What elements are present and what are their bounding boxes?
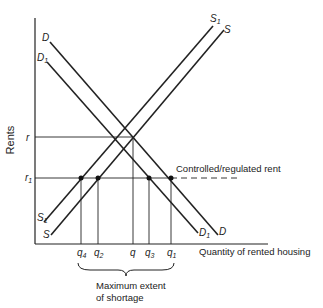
brace-label-line1: Maximum extent <box>96 280 166 291</box>
label-q3: q3 <box>145 247 155 259</box>
label-S-top: S <box>224 24 231 35</box>
shortage-brace <box>78 263 174 276</box>
label-S-bottom: S <box>43 229 50 240</box>
label-q4: q4 <box>77 247 87 259</box>
label-r1: r1 <box>25 172 32 184</box>
label-D-top: D <box>42 32 49 43</box>
point-q3 <box>147 176 152 181</box>
brace-label-line2: of shortage <box>96 292 144 303</box>
label-q1: q1 <box>167 247 177 259</box>
point-q2 <box>96 176 101 181</box>
point-q4 <box>79 176 84 181</box>
label-D-bottom: D <box>219 226 226 237</box>
label-S1-top: S1 <box>210 13 221 25</box>
x-axis-label: Quantity of rented housing <box>199 246 310 257</box>
supply-curve-S1 <box>44 26 213 222</box>
point-q1 <box>169 176 174 181</box>
label-r: r <box>26 132 30 143</box>
y-axis-label: Rents <box>4 125 16 154</box>
supply-curve-S <box>51 30 224 235</box>
controlled-rent-label: Controlled/regulated rent <box>176 163 281 174</box>
label-q: q <box>130 247 136 258</box>
label-D1-bottom: D1 <box>199 227 210 239</box>
label-S1-bottom: S1 <box>37 212 48 224</box>
rent-control-diagram: Rents r r1 Controlled/regulated rent D D… <box>0 0 323 308</box>
label-D1-top: D1 <box>37 52 48 64</box>
label-q2: q2 <box>94 247 104 259</box>
